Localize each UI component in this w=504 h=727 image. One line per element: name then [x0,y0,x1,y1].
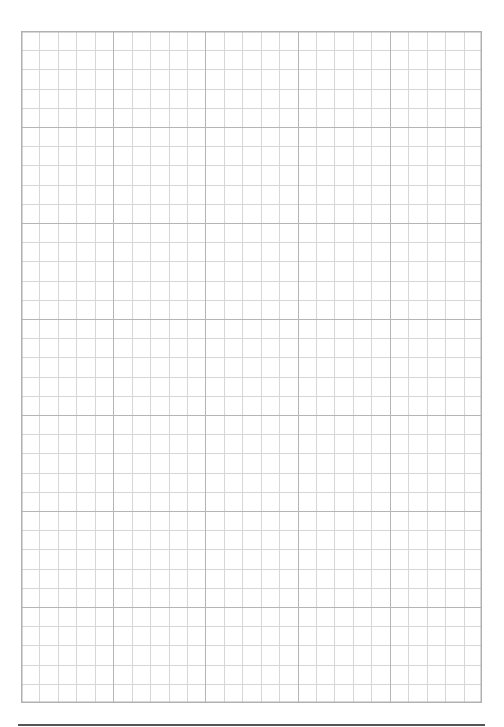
graph-grid [21,31,482,703]
graph-paper-page [0,0,504,727]
bottom-rule-line [18,724,485,726]
